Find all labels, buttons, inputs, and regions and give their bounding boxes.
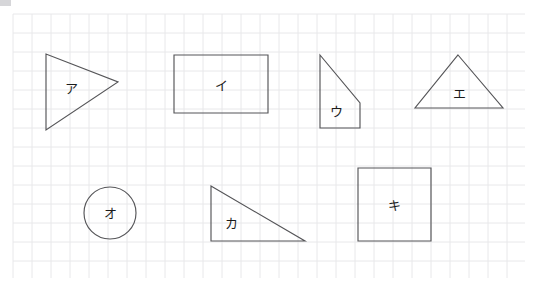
worksheet-canvas: アイウエオカキ xyxy=(0,0,548,291)
shape-quadrilateral-shape-u: ウ xyxy=(320,55,360,128)
shape-triangle-shape-a: ア xyxy=(46,54,118,130)
shape-u-label: ウ xyxy=(330,104,343,119)
shape-ka-outline xyxy=(211,186,305,241)
shape-triangle-shape-ka: カ xyxy=(211,186,305,241)
shape-i-label: イ xyxy=(215,78,228,93)
shape-triangle-shape-e: エ xyxy=(415,55,503,108)
shape-a-label: ア xyxy=(65,81,78,96)
shape-a-outline xyxy=(46,54,118,130)
shape-square-shape-ki: キ xyxy=(358,168,431,241)
shape-ki-label: キ xyxy=(388,198,401,213)
shape-e-label: エ xyxy=(453,86,466,101)
shape-ka-label: カ xyxy=(225,216,238,231)
shapes-layer: アイウエオカキ xyxy=(0,0,548,291)
shape-o-label: オ xyxy=(104,206,117,221)
shape-rectangle-shape-i: イ xyxy=(174,55,268,113)
shape-circle-shape-o: オ xyxy=(84,187,136,239)
